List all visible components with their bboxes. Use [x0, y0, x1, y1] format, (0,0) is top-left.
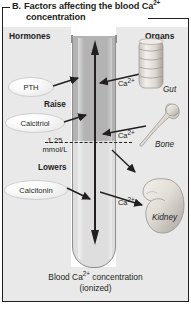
arrow-tube-to-bone	[112, 150, 135, 172]
organ-name-kidney: Kidney	[152, 213, 177, 222]
arrow-pth-to-tube	[53, 78, 78, 86]
caption-line1-post: concentration	[90, 272, 143, 282]
arrow-calcitriol-to-tube	[64, 115, 86, 122]
caption-line1-sup: 2+	[83, 270, 90, 277]
calcium-label-bone: Ca2+	[118, 131, 135, 140]
organ-name-gut: Gut	[163, 85, 176, 94]
calcium-label-gut: Ca2+	[118, 79, 135, 88]
gut-illustration-icon	[136, 38, 166, 90]
calcium-ion-sup-bone: 2+	[127, 129, 134, 136]
calcium-ion-sup-gut: 2+	[127, 77, 134, 84]
caption-line2: (ionized)	[79, 283, 111, 293]
kidney-illustration-icon	[132, 176, 186, 236]
organ-name-bone: Bone	[155, 140, 174, 149]
caption-line1-pre: Blood Ca	[48, 272, 82, 282]
figure-panel: B.Factors affecting the blood Ca2+ conce…	[0, 0, 191, 312]
figure-caption: Blood Ca2+ concentration (ionized)	[3, 272, 188, 294]
arrow-calcitonin-to-tube	[67, 188, 90, 199]
